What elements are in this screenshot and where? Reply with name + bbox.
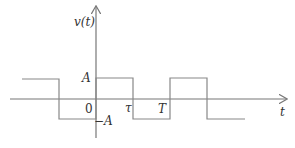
period-label: T (158, 102, 167, 116)
low-level-label: −A (94, 114, 113, 128)
waveform-diagram: v(t) A 0 −A τ T t (0, 0, 295, 148)
y-axis-label: v(t) (74, 15, 95, 29)
origin-label: 0 (85, 102, 93, 116)
high-level-label: A (81, 71, 91, 85)
tau-label: τ (125, 101, 132, 115)
x-axis-label: t (280, 105, 285, 119)
